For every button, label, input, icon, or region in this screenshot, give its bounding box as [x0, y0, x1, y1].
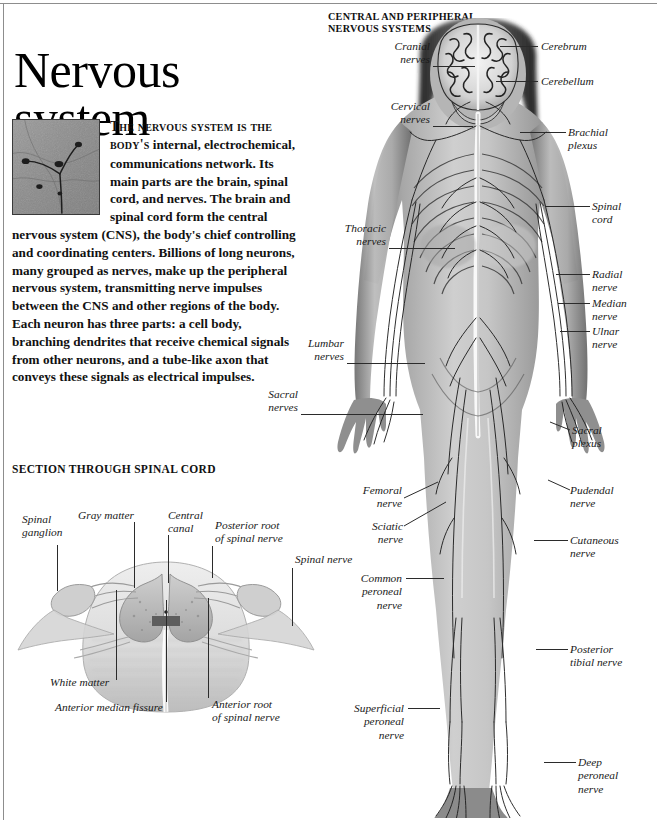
label-femoral-nerve: Femoral nerve: [336, 484, 402, 511]
label-gray-matter: Gray matter: [78, 509, 160, 522]
leader-sciatic-nerve: [404, 500, 448, 530]
label-cervical-nerves: Cervical nerves: [368, 100, 430, 127]
leader-superficial-peroneal-nerve: [408, 708, 440, 709]
label-sciatic-nerve: Sciatic nerve: [345, 520, 403, 547]
leader-sacral-nerves: [301, 414, 423, 415]
label-anterior-median-fissure: Anterior median fissure: [55, 701, 187, 714]
label-radial-nerve: Radial nerve: [592, 268, 648, 295]
label-thoracic-nerves: Thoracic nerves: [318, 222, 386, 249]
label-spinal-nerve: Spinal nerve: [295, 553, 365, 566]
label-cranial-nerves: Cranial nerves: [368, 40, 430, 67]
leader-central-canal: [168, 535, 169, 583]
label-cerebrum: Cerebrum: [541, 40, 621, 53]
label-posterior-root-of-spinal-nerve: Posterior root of spinal nerve: [215, 519, 313, 546]
label-brachial-plexus: Brachial plexus: [568, 126, 638, 153]
label-cutaneous-nerve: Cutaneous nerve: [570, 534, 640, 561]
label-sacral-plexus: Sacral plexus: [572, 424, 634, 451]
leader-anterior-median-fissure: [166, 600, 167, 702]
leader-cutaneous-nerve: [534, 540, 568, 541]
label-superficial-peroneal-nerve: Superficial peroneal nerve: [330, 702, 404, 742]
page-top-rule: [0, 3, 657, 4]
leader-anterior-root: [208, 598, 209, 698]
leader-gray-matter: [134, 522, 135, 588]
leader-cranial-nerves: [433, 66, 475, 67]
page-canvas: Nervous system The nervous system is the…: [0, 0, 657, 820]
label-sacral-nerves: Sacral nerves: [236, 388, 298, 415]
label-anterior-root-of-spinal-nerve: Anterior root of spinal nerve: [212, 698, 310, 725]
leader-white-matter: [116, 590, 117, 680]
leader-cervical-nerves: [433, 126, 473, 127]
label-median-nerve: Median nerve: [592, 297, 648, 324]
label-deep-peroneal-nerve: Deep peroneal nerve: [578, 756, 642, 796]
label-posterior-tibial-nerve: Posterior tibial nerve: [570, 643, 648, 670]
leader-lumbar-nerves: [347, 363, 425, 364]
leader-spinal-ganglion: [57, 545, 58, 591]
label-common-peroneal-nerve: Common peroneal nerve: [332, 572, 402, 612]
label-cerebellum: Cerebellum: [541, 75, 626, 88]
leader-cerebrum: [500, 46, 538, 47]
page-left-rule: [3, 3, 4, 820]
leader-posterior-root: [212, 546, 213, 578]
leader-cerebellum: [496, 81, 538, 82]
leader-femoral-nerve: [404, 480, 440, 502]
leader-spinal-nerve: [292, 568, 293, 626]
leader-brachial-plexus: [520, 132, 566, 133]
leader-spinal-cord: [545, 206, 590, 207]
leader-common-peroneal-nerve: [406, 578, 444, 579]
neuron-micrograph-image: [12, 119, 100, 215]
label-ulnar-nerve: Ulnar nerve: [592, 325, 648, 352]
leader-thoracic-nerves: [389, 248, 455, 249]
label-white-matter: White matter: [50, 676, 130, 689]
leader-posterior-tibial-nerve: [536, 649, 568, 650]
leader-sacral-plexus: [550, 420, 572, 438]
leader-pudendal-nerve: [548, 478, 572, 498]
leader-radial-nerve: [556, 274, 590, 275]
label-pudendal-nerve: Pudendal nerve: [570, 484, 636, 511]
leader-median-nerve: [558, 303, 590, 304]
label-spinal-cord: Spinal cord: [592, 200, 648, 227]
spinal-cord-section-heading: SECTION THROUGH SPINAL CORD: [12, 463, 216, 475]
label-lumbar-nerves: Lumbar nerves: [282, 337, 344, 364]
leader-deep-peroneal-nerve: [544, 762, 576, 763]
leader-ulnar-nerve: [560, 331, 590, 332]
